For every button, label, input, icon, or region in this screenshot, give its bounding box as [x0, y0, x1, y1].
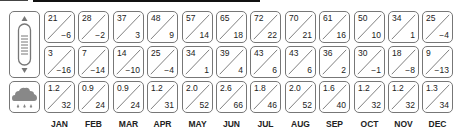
cell-bottom-value: 2: [341, 66, 346, 75]
cell-top-value: 18: [392, 49, 401, 58]
cell-top-value: 2.6: [220, 84, 232, 93]
cell-bottom-value: 40: [337, 101, 346, 110]
cell-temp_low-feb: 7−14: [78, 46, 109, 78]
month-label-aug: AUG: [285, 119, 316, 129]
cell-temp_low-oct: 30−1: [354, 46, 385, 78]
cell-temp_low-sep: 362: [319, 46, 350, 78]
cell-temp_high-dec: 25−4: [422, 11, 453, 43]
cell-temp_low-mar: 14−10: [113, 46, 144, 78]
cell-bottom-value: 52: [200, 101, 209, 110]
cell-top-value: 1.2: [358, 84, 370, 93]
cell-bottom-value: 21: [303, 31, 312, 40]
cell-top-value: 25: [426, 14, 435, 23]
cell-top-value: 39: [220, 49, 229, 58]
cell-top-value: 70: [289, 14, 298, 23]
month-label-nov: NOV: [388, 119, 419, 129]
cell-precip-jan: 1.232: [44, 81, 75, 113]
cell-temp_high-nov: 341: [388, 11, 419, 43]
cell-bottom-value: 18: [234, 31, 243, 40]
cell-bottom-value: −14: [91, 66, 105, 75]
cell-bottom-value: 32: [62, 101, 71, 110]
cell-temp_low-jul: 436: [250, 46, 281, 78]
cell-bottom-value: 6: [272, 66, 277, 75]
month-label-sep: SEP: [319, 119, 350, 129]
cell-top-value: 48: [151, 14, 160, 23]
cell-top-value: 34: [392, 14, 401, 23]
cell-top-value: 61: [323, 14, 332, 23]
cell-top-value: 1.3: [426, 84, 438, 93]
cell-temp_high-oct: 5010: [354, 11, 385, 43]
cell-temp_high-mar: 373: [113, 11, 144, 43]
cell-precip-may: 2.052: [182, 81, 213, 113]
cell-top-value: 14: [117, 49, 126, 58]
cell-bottom-value: −13: [435, 66, 449, 75]
cell-precip-apr: 1.231: [147, 81, 178, 113]
month-label-jul: JUL: [250, 119, 281, 129]
cell-top-value: 2.0: [289, 84, 301, 93]
cell-temp_low-dec: 9−13: [422, 46, 453, 78]
cell-temp_high-feb: 28−2: [78, 11, 109, 43]
cell-bottom-value: 1: [410, 31, 415, 40]
cell-bottom-value: 22: [268, 31, 277, 40]
cell-top-value: 34: [186, 49, 195, 58]
cell-precip-feb: 0.924: [78, 81, 109, 113]
cell-precip-dec: 1.334: [422, 81, 453, 113]
cell-bottom-value: 16: [337, 31, 346, 40]
cell-bottom-value: 6: [307, 66, 312, 75]
cell-temp_low-apr: 25−4: [147, 46, 178, 78]
month-label-may: MAY: [182, 119, 213, 129]
cell-bottom-value: 3: [135, 31, 140, 40]
cell-precip-aug: 2.052: [285, 81, 316, 113]
thermometer-icon-box: [9, 11, 40, 78]
month-label-jun: JUN: [216, 119, 247, 129]
month-label-jan: JAN: [44, 119, 75, 129]
cell-bottom-value: −6: [61, 31, 71, 40]
cell-precip-sep: 1.640: [319, 81, 350, 113]
cell-temp_high-jul: 7222: [250, 11, 281, 43]
header-rule-short: [0, 0, 28, 1]
cell-temp_low-jan: 3−16: [44, 46, 75, 78]
cell-bottom-value: −10: [126, 66, 140, 75]
month-label-mar: MAR: [113, 119, 144, 129]
cell-top-value: 21: [48, 14, 57, 23]
cell-bottom-value: −16: [57, 66, 71, 75]
cell-temp_low-nov: 18−8: [388, 46, 419, 78]
cell-precip-jul: 1.846: [250, 81, 281, 113]
cell-bottom-value: 32: [406, 101, 415, 110]
cell-bottom-value: 46: [268, 101, 277, 110]
rain-cloud-icon-box: [9, 81, 40, 113]
month-label-apr: APR: [147, 119, 178, 129]
cell-top-value: 0.9: [82, 84, 94, 93]
cell-top-value: 43: [289, 49, 298, 58]
cell-top-value: 25: [151, 49, 160, 58]
cell-top-value: 2.0: [186, 84, 198, 93]
cell-top-value: 72: [254, 14, 263, 23]
cell-top-value: 9: [426, 49, 431, 58]
cell-top-value: 50: [358, 14, 367, 23]
cell-top-value: 1.2: [48, 84, 60, 93]
cell-bottom-value: 24: [131, 101, 140, 110]
cell-bottom-value: 52: [303, 101, 312, 110]
cell-temp_low-aug: 436: [285, 46, 316, 78]
cell-precip-oct: 1.232: [354, 81, 385, 113]
cell-top-value: 30: [358, 49, 367, 58]
cell-top-value: 3: [48, 49, 53, 58]
cell-top-value: 1.6: [323, 84, 335, 93]
cell-temp_high-may: 5714: [182, 11, 213, 43]
cell-bottom-value: 34: [440, 101, 449, 110]
cell-bottom-value: −2: [95, 31, 105, 40]
cell-bottom-value: 24: [96, 101, 105, 110]
cell-bottom-value: −1: [371, 66, 381, 75]
cell-bottom-value: −8: [405, 66, 415, 75]
cell-bottom-value: −4: [164, 66, 174, 75]
cell-top-value: 57: [186, 14, 195, 23]
cell-top-value: 28: [82, 14, 91, 23]
cell-bottom-value: 14: [200, 31, 209, 40]
thermometer-icon: [10, 12, 39, 77]
month-label-feb: FEB: [78, 119, 109, 129]
cell-bottom-value: 32: [372, 101, 381, 110]
cell-bottom-value: 1: [204, 66, 209, 75]
cell-temp_high-sep: 6116: [319, 11, 350, 43]
cell-temp_low-may: 341: [182, 46, 213, 78]
cell-temp_high-aug: 7021: [285, 11, 316, 43]
